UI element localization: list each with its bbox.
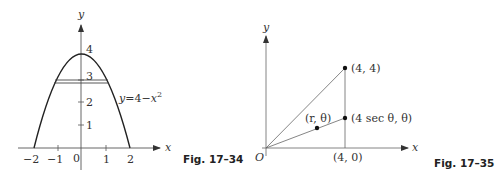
y-tick-label: 4 — [86, 43, 93, 56]
point-label-4-0: (4, 0) — [333, 151, 363, 164]
point-r-theta — [315, 126, 319, 130]
x-tick-label: 2 — [127, 153, 134, 166]
point-label-4-sec-theta: (4 sec θ, θ) — [351, 112, 412, 125]
figure-17-35: y x O (4, 4) (4 sec θ, θ) (r, θ) (4, 0) … — [255, 21, 494, 169]
point-4-sec-theta — [343, 116, 347, 120]
y-tick-label: 3 — [86, 70, 93, 83]
curve-equation-label: y=4−x2 — [118, 90, 162, 105]
y-axis-label: y — [77, 8, 85, 21]
figures-canvas: y x −2 −1 0 1 2 1 2 3 4 y=4−x2 — [0, 0, 503, 181]
x-tick-label: 1 — [103, 153, 110, 166]
figure-caption: Fig. 17–34 — [183, 153, 243, 165]
point-label-4-4: (4, 4) — [351, 62, 381, 75]
figure-17-34: y x −2 −1 0 1 2 1 2 3 4 y=4−x2 — [18, 8, 243, 170]
point-label-r-theta: (r, θ) — [305, 112, 331, 125]
y-tick-label: 1 — [86, 119, 93, 132]
x-axis-label: x — [412, 141, 419, 154]
x-axis-label: x — [165, 141, 172, 154]
point-4-4 — [343, 66, 347, 70]
x-tick-label: −1 — [47, 153, 63, 166]
x-tick-label: 0 — [73, 152, 80, 165]
parabola-curve — [34, 54, 130, 148]
figure-caption: Fig. 17–35 — [434, 157, 494, 169]
y-axis-label: y — [262, 21, 270, 34]
ray-to-4-4 — [266, 68, 345, 148]
x-tick-label: −2 — [23, 153, 39, 166]
origin-label: O — [255, 151, 264, 164]
y-tick-label: 2 — [86, 96, 93, 109]
horizontal-strip — [54, 80, 109, 83]
